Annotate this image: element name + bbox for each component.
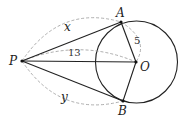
tangent-diagram: P A B O x y 13 5 <box>0 0 188 122</box>
segment-PO <box>22 61 136 62</box>
label-5: 5 <box>134 35 140 46</box>
label-O: O <box>140 60 150 74</box>
label-A: A <box>115 6 125 20</box>
point-P <box>20 59 23 62</box>
radius-OB <box>123 62 136 101</box>
point-A <box>119 20 122 23</box>
tangent-PB <box>22 61 123 101</box>
label-P: P <box>8 54 18 68</box>
label-B: B <box>117 104 127 118</box>
label-x: x <box>64 20 71 34</box>
point-B <box>121 99 124 102</box>
label-13: 13 <box>68 47 81 58</box>
point-O <box>134 60 137 63</box>
label-y: y <box>60 90 68 104</box>
